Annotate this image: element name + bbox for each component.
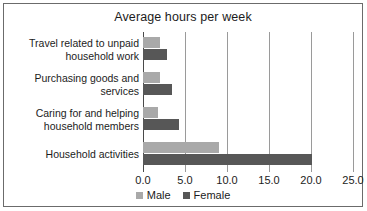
bar-group bbox=[143, 67, 353, 102]
category-label: Travel related to unpaidhousehold work bbox=[8, 37, 139, 62]
legend-label: Male bbox=[147, 189, 171, 201]
bar-male bbox=[143, 37, 160, 48]
x-axis-tick-label: 25.0 bbox=[342, 174, 363, 186]
bar-male bbox=[143, 72, 160, 83]
legend-swatch-icon bbox=[183, 192, 190, 199]
chart-legend: MaleFemale bbox=[4, 189, 362, 201]
bar-male bbox=[143, 107, 158, 118]
x-axis-tick-label: 0.0 bbox=[135, 174, 150, 186]
x-axis-tick-label: 15.0 bbox=[258, 174, 279, 186]
category-label-line: services bbox=[8, 85, 139, 98]
category-label: Caring for and helpinghousehold members bbox=[8, 107, 139, 132]
category-label-line: household members bbox=[8, 120, 139, 133]
bar-group bbox=[143, 32, 353, 67]
category-axis-labels: Travel related to unpaidhousehold workPu… bbox=[8, 32, 139, 172]
legend-swatch-icon bbox=[136, 192, 143, 199]
bar-group bbox=[143, 102, 353, 137]
x-axis-tick-label: 20.0 bbox=[300, 174, 321, 186]
bar-female bbox=[143, 154, 312, 165]
legend-entry: Male bbox=[136, 189, 171, 201]
bar-female bbox=[143, 49, 167, 60]
legend-entry: Female bbox=[183, 189, 231, 201]
category-label: Purchasing goods andservices bbox=[8, 72, 139, 97]
bar-female bbox=[143, 84, 172, 95]
category-label-line: household work bbox=[8, 50, 139, 63]
chart-frame: Average hours per week Travel related to… bbox=[3, 3, 363, 207]
x-axis-tick-label: 5.0 bbox=[177, 174, 192, 186]
category-label-line: Purchasing goods and bbox=[8, 72, 139, 85]
x-axis-tick-labels: 0.05.010.015.020.025.0 bbox=[143, 174, 353, 188]
chart-title: Average hours per week bbox=[4, 10, 362, 24]
category-label-line: Travel related to unpaid bbox=[8, 37, 139, 50]
category-label-line: Caring for and helping bbox=[8, 107, 139, 120]
category-label-line: Household activities bbox=[8, 148, 139, 161]
legend-label: Female bbox=[194, 189, 231, 201]
gridline bbox=[353, 32, 354, 172]
x-axis-tick-label: 10.0 bbox=[216, 174, 237, 186]
bar-group bbox=[143, 137, 353, 172]
category-label: Household activities bbox=[8, 148, 139, 161]
plot-area bbox=[143, 32, 353, 172]
bar-female bbox=[143, 119, 179, 130]
bar-male bbox=[143, 142, 219, 153]
